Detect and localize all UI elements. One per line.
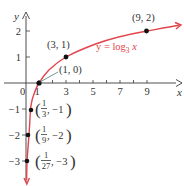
y-tick-neg3: −3 [9, 156, 20, 167]
point-label-9-2: (9, 2) [132, 12, 155, 24]
origin-label: 0 [20, 86, 25, 97]
log-chart: 0 1 3 5 7 9 x y 2 1 −1 −2 −3 y = log3 x … [0, 0, 184, 186]
y-tick-1: 1 [16, 52, 21, 63]
svg-text:9: 9 [42, 135, 46, 145]
point-third-neg1 [29, 108, 34, 113]
function-label: y = log3 x [96, 41, 137, 55]
y-tick-neg1: −1 [9, 104, 20, 115]
svg-text:, −3: , −3 [51, 156, 67, 167]
point-label-ninth-neg2: ( 1 9 , −2 ) [35, 124, 72, 145]
point-9-2 [144, 29, 149, 34]
svg-text:): ) [70, 152, 76, 171]
x-tick-7: 7 [117, 86, 122, 97]
y-axis-label: y [13, 10, 19, 22]
svg-text:, −1: , −1 [47, 104, 63, 115]
x-axis-label: x [176, 86, 182, 98]
svg-text:1: 1 [42, 124, 46, 134]
point-3-1 [64, 55, 69, 60]
point-label-1-0: (1, 0) [59, 64, 82, 76]
svg-text:(: ( [35, 100, 41, 119]
svg-text:3: 3 [42, 109, 46, 119]
point-27th-neg3 [25, 159, 30, 164]
svg-text:(: ( [35, 152, 41, 171]
x-axis: 0 1 3 5 7 9 x [4, 80, 182, 99]
point-label-27th-neg3: ( 1 27 , −3 ) [35, 150, 76, 171]
y-tick-2: 2 [16, 26, 21, 37]
svg-text:, −2: , −2 [47, 130, 63, 141]
svg-text:(: ( [35, 126, 41, 145]
svg-text:27: 27 [42, 161, 51, 171]
svg-text:1: 1 [44, 150, 48, 160]
x-tick-9: 9 [144, 86, 149, 97]
point-label-3-1: (3, 1) [47, 39, 70, 51]
point-label-third-neg1: ( 1 3 , −1 ) [35, 98, 72, 119]
svg-text:): ) [66, 100, 72, 119]
x-tick-3: 3 [63, 86, 68, 97]
y-tick-neg2: −2 [9, 130, 20, 141]
svg-text:): ) [66, 126, 72, 145]
x-tick-5: 5 [90, 86, 95, 97]
svg-text:1: 1 [42, 98, 46, 108]
point-ninth-neg2 [26, 133, 31, 138]
